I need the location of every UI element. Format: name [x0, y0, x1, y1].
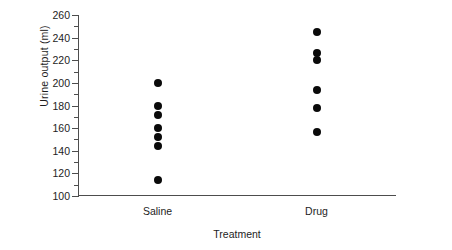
y-tick-mark [72, 60, 79, 61]
data-point [313, 28, 321, 36]
y-tick-mark [74, 139, 79, 140]
data-point [313, 86, 321, 94]
y-tick-mark [72, 173, 79, 174]
y-tick-label: 260 [52, 9, 70, 21]
data-point [154, 111, 162, 119]
data-point [154, 79, 162, 87]
data-point [154, 102, 162, 110]
x-category-label-saline: Saline [143, 205, 172, 217]
y-tick-label: 100 [52, 190, 70, 202]
data-point [154, 124, 162, 132]
y-tick-mark [74, 117, 79, 118]
y-tick-mark [74, 185, 79, 186]
y-tick-label: 220 [52, 54, 70, 66]
y-axis-title: Urine output (ml) [38, 0, 50, 146]
y-tick-mark [72, 106, 79, 107]
y-tick-label: 120 [52, 167, 70, 179]
y-tick-mark [72, 128, 79, 129]
plot-area: 100120140160180200220240260 SalineDrug [78, 15, 396, 196]
y-tick-mark [72, 196, 79, 197]
y-tick-mark [74, 94, 79, 95]
y-tick-mark [74, 72, 79, 73]
data-point [313, 104, 321, 112]
y-tick-mark [74, 49, 79, 50]
y-tick-mark [74, 162, 79, 163]
y-tick-label: 200 [52, 77, 70, 89]
y-tick-label: 180 [52, 100, 70, 112]
data-point [313, 56, 321, 64]
dot-plot-figure: Urine output (ml) 1001201401601802002202… [0, 0, 452, 250]
y-tick-label: 140 [52, 145, 70, 157]
y-tick-mark [72, 151, 79, 152]
data-point [313, 128, 321, 136]
y-tick-mark [72, 15, 79, 16]
data-point [154, 133, 162, 141]
x-axis-line [78, 195, 396, 196]
y-tick-mark [72, 38, 79, 39]
y-tick-label: 240 [52, 32, 70, 44]
x-category-label-drug: Drug [305, 205, 328, 217]
y-tick-mark [72, 83, 79, 84]
y-tick-mark [74, 26, 79, 27]
data-point [154, 176, 162, 184]
data-point [154, 142, 162, 150]
x-axis-title: Treatment [78, 228, 396, 240]
y-tick-label: 160 [52, 122, 70, 134]
